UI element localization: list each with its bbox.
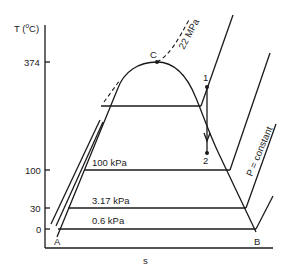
critical-point — [155, 60, 159, 64]
state-2-label: 2 — [203, 155, 208, 166]
critical-point-label: C — [150, 49, 157, 60]
isobar-100kpa-label: 100 kPa — [92, 157, 128, 168]
isobar-upper-superheat — [201, 15, 233, 106]
tick-label-0: 0 — [36, 224, 41, 235]
saturation-dome — [57, 62, 256, 237]
tick-label-100: 100 — [25, 165, 41, 176]
liquid-line-middle — [56, 122, 103, 226]
state-1-label: 1 — [203, 72, 208, 83]
tick-label-30: 30 — [30, 203, 41, 214]
ts-diagram: T (oC) 374 100 30 0 22 MPa C 1 2 100 kPa… — [0, 0, 290, 277]
point-a-label: A — [54, 236, 61, 247]
point-b-label: B — [254, 236, 260, 247]
critical-isobar-label: 22 MPa — [176, 16, 201, 51]
x-axis-label: s — [143, 255, 148, 266]
y-axis-label: T (oC) — [14, 22, 39, 34]
tick-label-374: 374 — [24, 57, 40, 68]
isobar-06kpa-label: 0.6 kPa — [92, 215, 125, 226]
isobar-317kpa-label: 3.17 kPa — [92, 195, 130, 206]
critical-isobar-left — [104, 80, 120, 102]
isobar-06kpa-superheat — [256, 196, 273, 229]
